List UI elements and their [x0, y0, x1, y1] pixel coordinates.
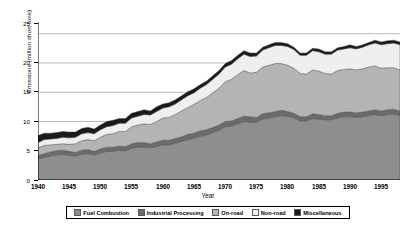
legend-label: On-road	[221, 210, 243, 216]
y-tick-label-5: 5	[8, 147, 30, 154]
x-tick-label-1970: 1970	[208, 183, 242, 190]
legend-label: Non-road	[261, 210, 286, 216]
x-tick-label-1990: 1990	[333, 183, 367, 190]
y-tick-label-15: 15	[8, 88, 30, 95]
y-tick-label-10: 10	[8, 118, 30, 125]
x-tick-label-1985: 1985	[302, 183, 336, 190]
x-tick-label-1950: 1950	[83, 183, 117, 190]
y-tick-label-25: 25	[8, 20, 30, 27]
legend-item[interactable]: Industrial Processing	[138, 209, 204, 216]
legend-swatch-icon	[252, 209, 259, 216]
legend-item[interactable]: Fuel Combustion	[74, 209, 129, 216]
legend-item[interactable]: Miscellaneous	[294, 209, 341, 216]
x-tick-label-1965: 1965	[177, 183, 211, 190]
plot-area	[38, 22, 400, 180]
y-tick-label-20: 20	[8, 59, 30, 66]
x-tick-label-1975: 1975	[239, 183, 273, 190]
x-axis-title: Year	[0, 192, 416, 199]
legend-swatch-icon	[294, 209, 301, 216]
legend-swatch-icon	[138, 209, 145, 216]
legend-swatch-icon	[212, 209, 219, 216]
legend-item[interactable]: Non-road	[252, 209, 286, 216]
x-tick-label-1945: 1945	[52, 183, 86, 190]
x-tick-label-1955: 1955	[114, 183, 148, 190]
emissions-stacked-area-chart: Emissions (million short tons) 0 5 10 15…	[0, 0, 416, 230]
legend-label: Miscellaneous	[303, 210, 341, 216]
x-tick-label-1940: 1940	[21, 183, 55, 190]
x-tick-label-1995: 1995	[364, 183, 398, 190]
legend-label: Fuel Combustion	[83, 210, 129, 216]
x-tick-label-1980: 1980	[270, 183, 304, 190]
legend-label: Industrial Processing	[147, 210, 204, 216]
legend-item[interactable]: On-road	[212, 209, 243, 216]
x-tick-label-1960: 1960	[146, 183, 180, 190]
chart-legend: Fuel CombustionIndustrial ProcessingOn-r…	[66, 206, 350, 219]
legend-swatch-icon	[74, 209, 81, 216]
y-tick-mark	[34, 180, 38, 181]
stacked-area-svg	[38, 22, 400, 180]
